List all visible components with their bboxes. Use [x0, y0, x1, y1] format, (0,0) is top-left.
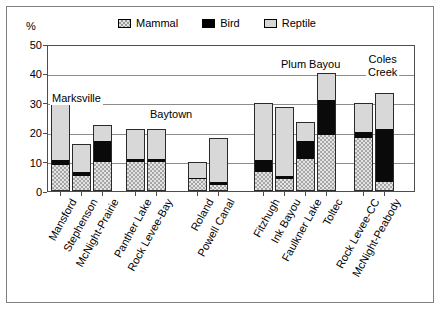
legend-label-reptile: Reptile: [282, 18, 316, 29]
bar-segment-mammal: [317, 135, 336, 191]
bar-segment-bird: [72, 172, 91, 176]
bar-segment-mammal: [147, 162, 166, 191]
bar-segment-bird: [126, 159, 145, 162]
bar-segment-bird: [354, 132, 373, 138]
bar-segment-mammal: [126, 162, 145, 191]
bar-mcnight-prairie: [93, 44, 112, 191]
legend-label-bird: Bird: [220, 18, 240, 29]
chart-figure: Mammal Bird Reptile % 01020304050 Marksv…: [0, 0, 441, 310]
y-tick-mark-50: [43, 45, 47, 46]
x-tick-mark-6: [218, 192, 219, 196]
bar-segment-reptile: [296, 122, 315, 141]
bar-segment-bird: [275, 176, 294, 179]
group-label-marksville: Marksville: [50, 92, 103, 105]
bar-segment-mammal: [51, 165, 70, 191]
bar-segment-mammal: [354, 138, 373, 191]
chart-legend: Mammal Bird Reptile: [118, 18, 316, 29]
bar-fitzhugh: [254, 44, 273, 191]
bar-segment-bird: [147, 159, 166, 162]
bar-segment-mammal: [275, 179, 294, 191]
legend-item-bird: Bird: [202, 18, 240, 29]
bar-segment-reptile: [51, 103, 70, 160]
bar-segment-bird: [209, 182, 228, 185]
bar-powell-canal: [209, 44, 228, 191]
bird-swatch-icon: [202, 19, 215, 28]
y-tick-mark-20: [43, 133, 47, 134]
bar-mansford: [51, 44, 70, 191]
x-tick-mark-3: [135, 192, 136, 196]
bar-segment-reptile: [354, 103, 373, 132]
x-tick-mark-1: [81, 192, 82, 196]
x-tick-mark-10: [326, 192, 327, 196]
bar-segment-reptile: [275, 107, 294, 176]
y-tick-label-50: 50: [22, 40, 42, 51]
y-tick-label-30: 30: [22, 98, 42, 109]
x-tick-mark-4: [156, 192, 157, 196]
bar-panther-lake: [126, 44, 145, 191]
bar-segment-mammal: [188, 179, 207, 191]
y-axis-unit-label: %: [26, 20, 36, 32]
bar-segment-bird: [296, 141, 315, 159]
plot-area: MarksvilleBaytownPlum BayouColesCreek: [47, 45, 415, 192]
bar-segment-reptile: [375, 93, 394, 130]
y-tick-mark-10: [43, 162, 47, 163]
y-tick-mark-40: [43, 74, 47, 75]
x-tick-mark-11: [363, 192, 364, 196]
bar-segment-reptile: [209, 138, 228, 182]
bar-segment-bird: [254, 160, 273, 172]
y-axis-tick-labels: 01020304050: [20, 45, 42, 192]
bar-segment-mammal: [209, 185, 228, 191]
bar-segment-reptile: [126, 129, 145, 158]
legend-item-mammal: Mammal: [118, 18, 178, 29]
bar-segment-mammal: [93, 162, 112, 191]
x-tick-mark-7: [263, 192, 264, 196]
mammal-swatch-icon: [118, 19, 131, 28]
y-tick-mark-30: [43, 103, 47, 104]
y-tick-label-0: 0: [22, 187, 42, 198]
group-label-plum-bayou: Plum Bayou: [279, 58, 342, 71]
bar-segment-mammal: [72, 176, 91, 191]
legend-label-mammal: Mammal: [136, 18, 178, 29]
y-tick-label-10: 10: [22, 157, 42, 168]
x-tick-mark-8: [284, 192, 285, 196]
legend-item-reptile: Reptile: [264, 18, 316, 29]
bar-segment-reptile: [72, 144, 91, 172]
bar-segment-reptile: [317, 73, 336, 99]
y-tick-mark-0: [43, 192, 47, 193]
bar-segment-bird: [317, 100, 336, 135]
group-label-baytown: Baytown: [148, 108, 194, 121]
bar-segment-reptile: [147, 129, 166, 158]
bar-segment-reptile: [93, 125, 112, 141]
bar-segment-mammal: [254, 172, 273, 191]
x-tick-mark-2: [102, 192, 103, 196]
bar-segment-mammal: [296, 159, 315, 191]
x-axis-label-toltec: Toltec: [321, 197, 345, 227]
x-tick-mark-5: [197, 192, 198, 196]
bar-segment-bird: [188, 178, 207, 179]
y-tick-label-40: 40: [22, 69, 42, 80]
bar-segment-bird: [93, 141, 112, 162]
x-tick-mark-12: [384, 192, 385, 196]
reptile-swatch-icon: [264, 19, 277, 28]
group-label-coles: ColesCreek: [366, 53, 399, 78]
bar-segment-bird: [51, 160, 70, 164]
bar-segment-bird: [375, 129, 394, 182]
bar-segment-mammal: [375, 182, 394, 191]
x-tick-mark-9: [305, 192, 306, 196]
x-tick-mark-0: [60, 192, 61, 196]
bar-stephenson: [72, 44, 91, 191]
bar-segment-reptile: [188, 162, 207, 178]
y-tick-label-20: 20: [22, 128, 42, 139]
x-axis-labels: MansfordStephensonMcNight-PrairiePanther…: [47, 197, 427, 302]
bar-segment-reptile: [254, 103, 273, 160]
